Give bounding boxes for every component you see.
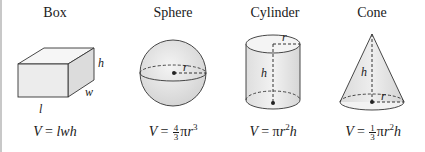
box-front-face bbox=[18, 64, 68, 97]
cone-formula: V = 13πr2h bbox=[318, 124, 425, 141]
cone-label-r: r bbox=[381, 89, 386, 103]
box-label-w: w bbox=[85, 85, 93, 99]
box-figure: h w l bbox=[18, 48, 104, 116]
cylinder-formula: V = πr2h bbox=[218, 124, 328, 140]
sphere-center-dot bbox=[172, 71, 176, 75]
cone-figure: h r bbox=[340, 34, 404, 110]
box-label-h: h bbox=[98, 56, 104, 70]
sphere-fraction: 43 bbox=[173, 124, 180, 141]
cylinder-label-r: r bbox=[282, 30, 287, 44]
sphere-figure: r bbox=[140, 40, 206, 106]
box-label-l: l bbox=[39, 102, 43, 116]
cylinder-figure: r h bbox=[246, 30, 300, 109]
cylinder-label-h: h bbox=[261, 66, 267, 80]
cylinder-center-dot bbox=[271, 101, 275, 105]
sphere-formula: V = 43πr3 bbox=[118, 124, 228, 141]
cone-label-h: h bbox=[361, 65, 367, 79]
sphere-label-r: r bbox=[183, 60, 188, 74]
cone-fraction: 13 bbox=[369, 124, 376, 141]
cone-center-dot bbox=[370, 100, 374, 104]
box-formula: V = lwh bbox=[0, 124, 110, 140]
